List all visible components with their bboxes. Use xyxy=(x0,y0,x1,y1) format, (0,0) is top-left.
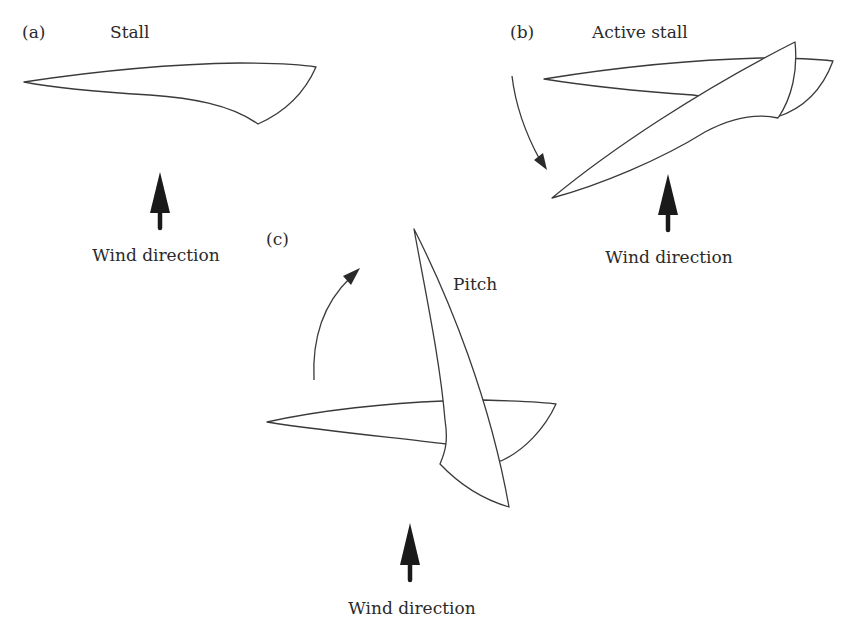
pitch-blade-original xyxy=(267,400,556,461)
rotation-arrow-b xyxy=(512,76,547,170)
wind-arrow-c xyxy=(400,523,420,580)
panel-c-wind-label: Wind direction xyxy=(348,598,475,618)
panel-active-stall: (b) Active stall Wind direction xyxy=(510,22,833,267)
panel-b-label: (b) xyxy=(510,22,534,42)
pitch-blade-rotated xyxy=(414,229,509,507)
panel-b-title: Active stall xyxy=(591,22,688,42)
panel-b-wind-label: Wind direction xyxy=(605,247,732,267)
panel-pitch: (c) Pitch Wind direction xyxy=(266,229,556,618)
blade-control-diagram: (a) Stall Wind direction (b) Active stal… xyxy=(0,0,850,633)
panel-c-title: Pitch xyxy=(453,274,497,294)
rotation-arrow-c xyxy=(314,268,360,380)
stall-blade xyxy=(24,63,316,124)
panel-a-title: Stall xyxy=(110,22,150,42)
wind-arrow-b xyxy=(658,174,678,230)
wind-arrow-a xyxy=(150,172,170,228)
panel-a-label: (a) xyxy=(22,22,45,42)
panel-a-wind-label: Wind direction xyxy=(92,245,219,265)
panel-c-label: (c) xyxy=(266,229,289,249)
